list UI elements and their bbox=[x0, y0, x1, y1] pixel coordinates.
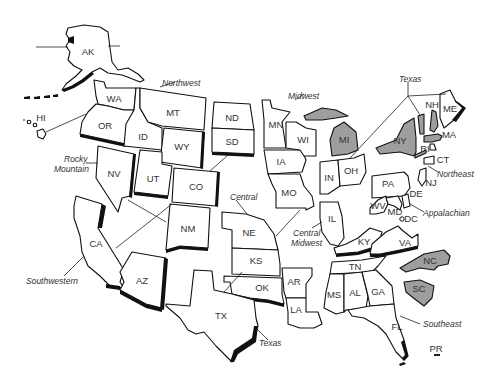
label-in: IN bbox=[324, 172, 334, 183]
label-fl: FL bbox=[391, 321, 402, 332]
label-nv: NV bbox=[107, 168, 121, 179]
label-me: ME bbox=[443, 103, 457, 114]
region-label-central: Central bbox=[230, 192, 259, 202]
label-mt: MT bbox=[166, 107, 180, 118]
region-label-central-midwest-2: Midwest bbox=[291, 238, 323, 248]
label-nj: NJ bbox=[425, 177, 437, 188]
label-ma: MA bbox=[442, 129, 457, 140]
label-co: CO bbox=[189, 181, 203, 192]
label-sc: SC bbox=[412, 283, 425, 294]
label-ut: UT bbox=[147, 173, 160, 184]
region-label-northwest: Northwest bbox=[162, 78, 201, 88]
us-regions-map: AK HI WA OR ID MT WY NV UT bbox=[0, 0, 492, 386]
label-pa: PA bbox=[382, 178, 395, 189]
label-ak: AK bbox=[82, 46, 95, 57]
region-label-rocky-mountain-1: Rocky bbox=[64, 154, 88, 164]
label-pr: PR bbox=[429, 343, 442, 354]
region-label-southwestern: Southwestern bbox=[26, 276, 78, 286]
label-ia: IA bbox=[277, 156, 287, 167]
label-la: LA bbox=[290, 304, 302, 315]
state-fl[interactable] bbox=[348, 304, 408, 366]
state-vt[interactable] bbox=[418, 114, 424, 134]
region-label-appalachian: Appalachian bbox=[422, 208, 470, 218]
label-il: IL bbox=[328, 213, 336, 224]
label-or: OR bbox=[98, 120, 112, 131]
label-ok: OK bbox=[255, 282, 269, 293]
label-ri: RI bbox=[420, 143, 430, 154]
label-ar: AR bbox=[287, 276, 300, 287]
label-dc: DC bbox=[404, 213, 418, 224]
label-nm: NM bbox=[181, 223, 196, 234]
label-nd: ND bbox=[225, 112, 239, 123]
state-ct[interactable] bbox=[424, 156, 434, 164]
label-ct: CT bbox=[437, 154, 450, 165]
label-ca: CA bbox=[89, 238, 103, 249]
state-hi[interactable] bbox=[23, 114, 86, 139]
label-ky: KY bbox=[358, 236, 371, 247]
label-tn: TN bbox=[349, 261, 362, 272]
label-al: AL bbox=[349, 287, 361, 298]
label-ny: NY bbox=[393, 135, 407, 146]
label-wy: WY bbox=[174, 141, 190, 152]
state-il[interactable] bbox=[320, 202, 344, 246]
label-mn: MN bbox=[269, 119, 284, 130]
label-ne: NE bbox=[242, 227, 255, 238]
region-label-southeast: Southeast bbox=[423, 319, 462, 329]
label-md: MD bbox=[388, 206, 403, 217]
state-ma[interactable] bbox=[424, 134, 442, 142]
state-nh[interactable] bbox=[430, 110, 438, 132]
label-ms: MS bbox=[327, 289, 341, 300]
region-label-central-midwest-1: Central bbox=[293, 228, 322, 238]
label-ga: GA bbox=[371, 286, 385, 297]
label-hi: HI bbox=[36, 112, 46, 123]
label-va: VA bbox=[399, 237, 412, 248]
region-label-texas-south: Texas bbox=[259, 338, 282, 348]
label-ks: KS bbox=[250, 255, 263, 266]
label-sd: SD bbox=[225, 136, 238, 147]
label-mi: MI bbox=[339, 134, 350, 145]
region-label-rocky-mountain-2: Mountain bbox=[54, 164, 89, 174]
label-tx: TX bbox=[215, 310, 228, 321]
label-id: ID bbox=[138, 131, 148, 142]
label-wv: WV bbox=[370, 200, 386, 211]
region-label-northeast: Northeast bbox=[437, 169, 474, 179]
label-wa: WA bbox=[107, 93, 123, 104]
label-nh: NH bbox=[425, 99, 439, 110]
label-nc: NC bbox=[423, 255, 437, 266]
territory-pr[interactable] bbox=[434, 354, 440, 356]
state-nv[interactable] bbox=[96, 146, 136, 212]
label-oh: OH bbox=[344, 165, 358, 176]
label-wi: WI bbox=[297, 134, 309, 145]
label-de: DE bbox=[409, 188, 422, 199]
label-mo: MO bbox=[281, 187, 296, 198]
region-label-texas-north: Texas bbox=[399, 74, 422, 84]
label-az: AZ bbox=[136, 275, 148, 286]
region-label-midwest: Midwest bbox=[288, 91, 320, 101]
